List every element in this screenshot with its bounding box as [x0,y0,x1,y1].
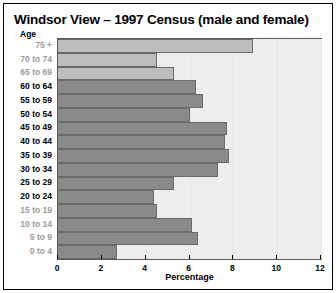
y-axis-tick-label: 35 to 39 [0,150,52,160]
y-axis-tick-label: 65 to 69 [0,67,52,77]
y-axis-tick-label: 10 to 14 [0,219,52,229]
y-axis-tick-label: 50 to 54 [0,109,52,119]
gridline [277,39,278,259]
bar [58,218,192,232]
x-axis-tick-mark [232,255,233,259]
y-axis-tick-label: 75 + [0,40,52,50]
y-axis-tick-label: 25 to 29 [0,177,52,187]
y-axis-tick-label: 30 to 34 [0,164,52,174]
bar [58,39,253,53]
x-axis-tick-mark [57,255,58,259]
bar [58,135,225,149]
bar [58,177,174,191]
y-axis-tick-label: 5 to 9 [0,232,52,242]
bar [58,149,229,163]
bar [58,204,157,218]
bar [58,232,198,246]
bar [58,245,117,259]
bar [58,190,154,204]
y-axis-tick-label: 70 to 74 [0,54,52,64]
x-axis-tick-mark [145,255,146,259]
y-axis-tick-label: 45 to 49 [0,122,52,132]
y-axis-tick-label: 40 to 44 [0,136,52,146]
y-axis-tick-label: 15 to 19 [0,205,52,215]
bar [58,122,227,136]
plot-area [57,38,322,260]
y-axis-tick-label: 20 to 24 [0,191,52,201]
chart-figure: Windsor View – 1997 Census (male and fem… [0,0,336,293]
gridline [321,39,322,259]
bar [58,53,157,67]
x-axis-title: Percentage [57,272,322,282]
chart-title: Windsor View – 1997 Census (male and fem… [14,12,324,27]
x-axis-tick-mark [101,255,102,259]
bar [58,80,196,94]
gridline [233,39,234,259]
x-axis-tick-mark [276,255,277,259]
y-axis-tick-label: 55 to 59 [0,95,52,105]
y-axis-tick-label: 0 to 4 [0,246,52,256]
x-axis-tick-mark [189,255,190,259]
y-axis-title: Age [20,29,36,39]
bar [58,94,203,108]
bar [58,67,174,81]
bar [58,108,190,122]
x-axis-tick-mark [320,255,321,259]
y-axis-tick-label: 60 to 64 [0,81,52,91]
bar [58,163,218,177]
